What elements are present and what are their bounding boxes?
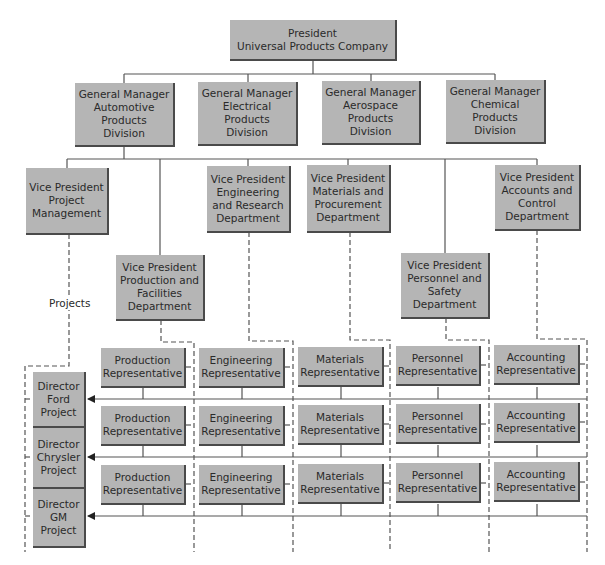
org-chart-canvas: President Universal Products Company Gen… — [0, 0, 605, 565]
director-gm-box: Director GM Project — [33, 489, 86, 548]
director-chrysler-box: Director Chrysler Project — [33, 428, 86, 489]
gm-aerospace-box: General Manager Aerospace Products Divis… — [322, 81, 421, 145]
president-box: President Universal Products Company — [230, 20, 397, 61]
accounting-rep-chrysler: Accounting Representative — [494, 403, 580, 443]
projects-label: Projects — [49, 296, 90, 310]
engineering-rep-gm: Engineering Representative — [199, 465, 285, 505]
production-rep-gm: Production Representative — [101, 465, 186, 505]
gm-electrical-box: General Manager Electrical Products Divi… — [198, 82, 298, 146]
vp-materials-box: Vice President Materials and Procurement… — [307, 165, 391, 233]
director-ford-box: Director Ford Project — [33, 372, 86, 428]
materials-rep-gm: Materials Representative — [298, 464, 384, 504]
personnel-rep-gm: Personnel Representative — [396, 463, 481, 503]
vp-engineering-box: Vice President Engineering and Research … — [207, 166, 291, 233]
personnel-rep-chrysler: Personnel Representative — [396, 404, 481, 444]
production-rep-chrysler: Production Representative — [101, 406, 186, 446]
materials-rep-ford: Materials Representative — [298, 347, 384, 387]
production-rep-ford: Production Representative — [101, 348, 186, 388]
engineering-rep-chrysler: Engineering Representative — [199, 406, 285, 446]
personnel-rep-ford: Personnel Representative — [396, 346, 481, 386]
accounting-rep-ford: Accounting Representative — [494, 345, 580, 385]
engineering-rep-ford: Engineering Representative — [199, 348, 285, 388]
gm-chemical-box: General Manager Chemical Products Divisi… — [446, 80, 546, 144]
vp-accounts-box: Vice President Accounts and Control Depa… — [495, 165, 581, 231]
materials-rep-chrysler: Materials Representative — [298, 405, 384, 445]
vp-project-management-box: Vice President Project Management — [26, 168, 109, 235]
vp-personnel-box: Vice President Personnel and Safety Depa… — [401, 253, 490, 319]
vp-production-box: Vice President Production and Facilities… — [116, 255, 205, 321]
gm-automotive-box: General Manager Automotive Products Divi… — [75, 83, 175, 147]
accounting-rep-gm: Accounting Representative — [494, 462, 580, 502]
